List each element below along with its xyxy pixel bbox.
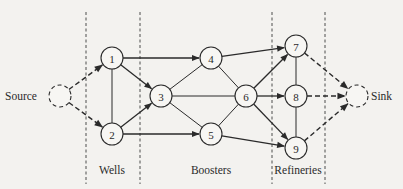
node-3: 3 <box>150 85 172 107</box>
edge-2-to-3 <box>121 103 152 127</box>
node-label: 3 <box>158 91 164 103</box>
node-8: 8 <box>285 85 307 107</box>
node-label: 7 <box>293 41 299 53</box>
edge-4-to-7 <box>222 48 284 57</box>
edge-4-to-6 <box>218 66 238 88</box>
node-label: 4 <box>208 53 214 65</box>
group-label-refineries: Refineries <box>274 164 322 176</box>
node-9: 9 <box>285 137 307 159</box>
node-5: 5 <box>200 123 222 145</box>
sink-node <box>346 85 368 107</box>
group-label-wells: Wells <box>99 164 125 176</box>
edge-3-to-4 <box>170 65 202 90</box>
edge-9-to-sink <box>304 104 347 141</box>
edge-6-to-9 <box>254 104 288 139</box>
edge-5-to-9 <box>222 136 284 146</box>
edge-5-to-6 <box>218 104 238 126</box>
node-label: 9 <box>293 143 299 155</box>
node-1: 1 <box>101 47 123 69</box>
edge-1-to-3 <box>121 65 152 89</box>
node-label: 6 <box>243 91 249 103</box>
edge-6-to-7 <box>254 54 288 88</box>
sink-label: Sink <box>371 90 392 102</box>
node-2: 2 <box>101 123 123 145</box>
node-label: 2 <box>109 129 115 141</box>
node-label: 8 <box>293 91 299 103</box>
node-6: 6 <box>235 85 257 107</box>
source-node <box>49 85 71 107</box>
nodes-layer: 123456789 <box>49 35 368 159</box>
edge-3-to-5 <box>170 103 202 128</box>
node-4: 4 <box>200 47 222 69</box>
edge-7-to-sink <box>305 53 348 88</box>
node-label: 1 <box>109 53 115 65</box>
node-7: 7 <box>285 35 307 57</box>
network-diagram: 123456789 Source Sink Wells Boosters Ref… <box>0 0 403 189</box>
group-label-boosters: Boosters <box>191 164 232 176</box>
source-label: Source <box>5 90 37 102</box>
node-label: 5 <box>208 129 214 141</box>
